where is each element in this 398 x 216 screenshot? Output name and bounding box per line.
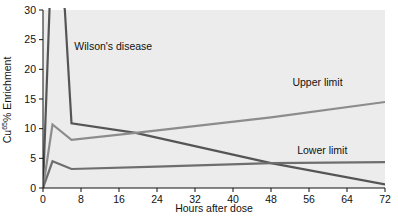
line-chart: 051015202530 081624324048566472 Wilson's… bbox=[0, 0, 398, 216]
y-axis-title: Cu65% Enrichment bbox=[1, 57, 13, 144]
x-tick-label: 48 bbox=[265, 193, 277, 205]
y-axis-ticks: 051015202530 bbox=[24, 4, 43, 194]
x-tick-label: 72 bbox=[379, 193, 391, 205]
x-tick-label: 8 bbox=[78, 193, 84, 205]
y-tick-label: 0 bbox=[30, 182, 36, 194]
series-label-wilson-s-disease: Wilson's disease bbox=[74, 40, 152, 52]
svg-text:Cu65% Enrichment: Cu65% Enrichment bbox=[1, 57, 13, 144]
series-label-lower-limit: Lower limit bbox=[297, 144, 347, 156]
x-tick-label: 16 bbox=[113, 193, 125, 205]
y-tick-label: 30 bbox=[24, 4, 36, 16]
y-tick-label: 5 bbox=[30, 152, 36, 164]
x-tick-label: 64 bbox=[341, 193, 353, 205]
chart-figure: 051015202530 081624324048566472 Wilson's… bbox=[0, 0, 398, 216]
plot-area-background bbox=[43, 10, 385, 188]
y-tick-label: 15 bbox=[24, 93, 36, 105]
y-tick-label: 20 bbox=[24, 63, 36, 75]
y-axis-title-base: Cu bbox=[1, 130, 13, 144]
y-tick-label: 25 bbox=[24, 33, 36, 45]
y-axis-title-superscript: 65 bbox=[1, 122, 8, 130]
series-label-upper-limit: Upper limit bbox=[292, 76, 342, 88]
y-axis-title-rest: % Enrichment bbox=[1, 57, 13, 122]
x-tick-label: 56 bbox=[303, 193, 315, 205]
x-tick-label: 0 bbox=[40, 193, 46, 205]
x-axis-title: Hours after dose bbox=[175, 202, 253, 214]
x-tick-label: 24 bbox=[151, 193, 163, 205]
y-tick-label: 10 bbox=[24, 122, 36, 134]
